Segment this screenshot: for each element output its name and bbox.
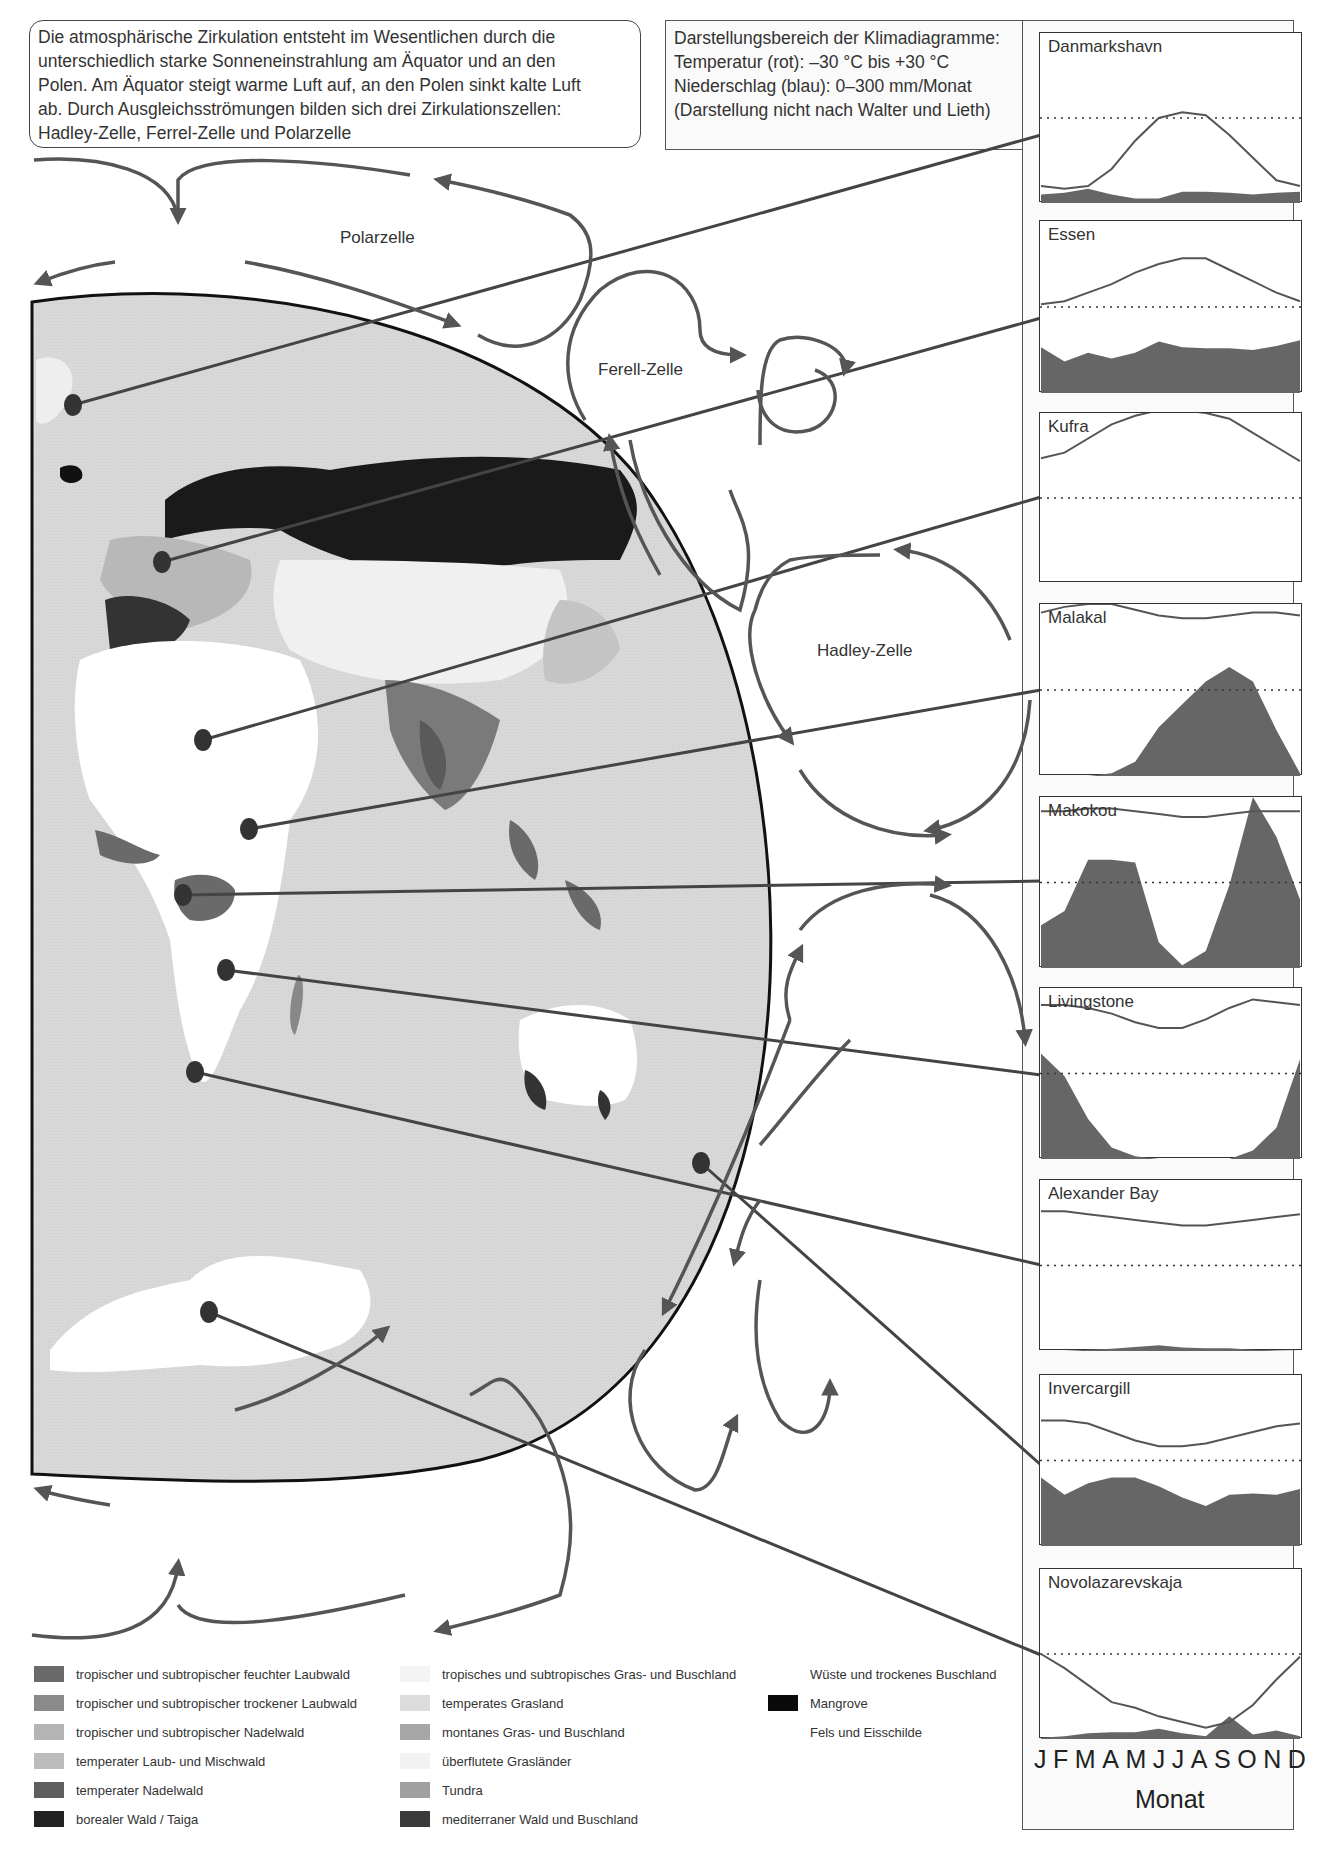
legend-swatch: [768, 1724, 798, 1740]
month-label: S: [1214, 1745, 1231, 1774]
station-name: Alexander Bay: [1048, 1184, 1159, 1204]
legend-swatch: [34, 1724, 64, 1740]
station-name: Danmarkshavn: [1048, 37, 1162, 57]
month-label: J: [1034, 1745, 1047, 1774]
legend-item: Mangrove: [768, 1693, 868, 1713]
month-label: F: [1053, 1745, 1068, 1774]
label-ferrel-cell: Ferell-Zelle: [598, 360, 683, 380]
legend-swatch: [34, 1695, 64, 1711]
month-label: O: [1237, 1745, 1256, 1774]
station-name: Makokou: [1048, 801, 1117, 821]
legend-item: Fels und Eisschilde: [768, 1722, 922, 1742]
legend-swatch: [400, 1811, 430, 1827]
climate-chart-makokou: Makokou: [1039, 796, 1302, 967]
month-label: M: [1075, 1745, 1096, 1774]
month-label: J: [1153, 1745, 1166, 1774]
legend-swatch: [34, 1782, 64, 1798]
station-name: Essen: [1048, 225, 1095, 245]
legend-item: borealer Wald / Taiga: [34, 1809, 198, 1829]
legend-swatch: [768, 1695, 798, 1711]
station-name: Invercargill: [1048, 1379, 1130, 1399]
climate-chart-novolazarevskaja: Novolazarevskaja: [1039, 1568, 1302, 1738]
legend-item: tropisches und subtropisches Gras- und B…: [400, 1664, 736, 1684]
legend-item: mediterraner Wald und Buschland: [400, 1809, 638, 1829]
station-name: Novolazarevskaja: [1048, 1573, 1182, 1593]
climate-chart-essen: Essen: [1039, 220, 1302, 392]
legend-item: Tundra: [400, 1780, 483, 1800]
label-polar-cell: Polarzelle: [340, 228, 415, 248]
legend-swatch: [400, 1695, 430, 1711]
legend-item: überflutete Grasländer: [400, 1751, 571, 1771]
month-label: J: [1172, 1745, 1185, 1774]
legend-swatch: [400, 1782, 430, 1798]
month-axis-title: Monat: [1135, 1785, 1204, 1814]
legend-item: tropischer und subtropischer feuchter La…: [34, 1664, 350, 1684]
climate-chart-livingstone: Livingstone: [1039, 987, 1302, 1158]
legend-item: Wüste und trockenes Buschland: [768, 1664, 996, 1684]
legend-item: montanes Gras- und Buschland: [400, 1722, 625, 1742]
legend-swatch: [34, 1811, 64, 1827]
legend-item: tropischer und subtropischer trockener L…: [34, 1693, 357, 1713]
climate-chart-alexander-bay: Alexander Bay: [1039, 1179, 1302, 1350]
legend-swatch: [768, 1666, 798, 1682]
climate-chart-invercargill: Invercargill: [1039, 1374, 1302, 1545]
legend-item: tropischer und subtropischer Nadelwald: [34, 1722, 304, 1742]
month-label: A: [1191, 1745, 1208, 1774]
climate-chart-danmarkshavn: Danmarkshavn: [1039, 32, 1302, 202]
label-hadley-cell: Hadley-Zelle: [817, 641, 912, 661]
legend-swatch: [400, 1666, 430, 1682]
month-label: M: [1125, 1745, 1146, 1774]
station-name: Livingstone: [1048, 992, 1134, 1012]
month-label: D: [1288, 1745, 1306, 1774]
legend-swatch: [400, 1724, 430, 1740]
legend-item: temperates Grasland: [400, 1693, 563, 1713]
month-label: N: [1263, 1745, 1281, 1774]
climate-chart-malakal: Malakal: [1039, 603, 1302, 775]
month-label: A: [1102, 1745, 1119, 1774]
legend-item: temperater Nadelwald: [34, 1780, 203, 1800]
station-name: Kufra: [1048, 417, 1089, 437]
month-axis: J F M A M J J A S O N D: [1034, 1745, 1306, 1774]
station-name: Malakal: [1048, 608, 1107, 628]
legend-item: temperater Laub- und Mischwald: [34, 1751, 265, 1771]
legend-swatch: [400, 1753, 430, 1769]
legend-swatch: [34, 1666, 64, 1682]
climate-chart-kufra: Kufra: [1039, 412, 1302, 582]
legend-swatch: [34, 1753, 64, 1769]
